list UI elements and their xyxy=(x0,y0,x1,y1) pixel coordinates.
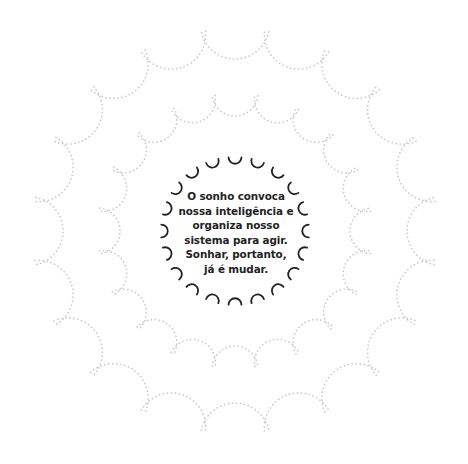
dotted-scallop-arc xyxy=(407,197,434,264)
solid-scallop-arc xyxy=(229,157,242,163)
dotted-scallop-arc xyxy=(343,251,370,295)
dotted-scallop-arc xyxy=(264,393,328,431)
dotted-scallop-arc xyxy=(201,403,268,430)
dotted-scallop-arc xyxy=(141,393,205,431)
quote-line-1: O sonho convoca xyxy=(175,189,297,204)
dotted-scallop-arc xyxy=(212,346,258,366)
dotted-scallop-arc xyxy=(172,339,216,366)
dotted-scallop-arc xyxy=(201,32,268,59)
solid-scallop-arc xyxy=(186,168,198,178)
dotted-scallop-arc xyxy=(54,87,102,144)
dotted-scallop-arc xyxy=(91,364,148,412)
dotted-scallop-arc xyxy=(141,31,205,69)
dotted-scallop-arc xyxy=(255,95,299,122)
quote-line-4: sistema para agir. xyxy=(175,233,297,248)
dotted-scallop-arc xyxy=(100,208,120,254)
dotted-scallop-arc xyxy=(137,108,177,142)
dotted-scallop-arc xyxy=(212,96,258,116)
dotted-scallop-arc xyxy=(172,95,216,122)
solid-scallop-arc xyxy=(161,225,167,238)
solid-scallop-arc xyxy=(302,225,308,238)
dotted-scallop-arc xyxy=(35,137,73,201)
dotted-scallop-arc xyxy=(36,197,63,264)
quote-line-3: organiza nosso xyxy=(175,218,297,233)
dotted-scallop-arc xyxy=(350,208,370,254)
dotted-scallop-arc xyxy=(264,31,328,69)
solid-scallop-arc xyxy=(272,284,284,294)
dotted-scallop-arc xyxy=(255,339,299,366)
dotted-scallop-arc xyxy=(99,251,126,295)
solid-scallop-arc xyxy=(229,298,242,304)
dotted-scallop-arc xyxy=(324,133,358,173)
solid-scallop-arc xyxy=(163,202,172,215)
quote-line-5: Sonhar, portanto, xyxy=(175,247,297,262)
quote-line-6: já é mudar. xyxy=(175,262,297,277)
dotted-scallop-arc xyxy=(397,260,435,324)
solid-scallop-arc xyxy=(298,247,307,260)
dotted-scallop-arc xyxy=(99,168,126,212)
dotted-scallop-arc xyxy=(322,364,379,412)
solid-scallop-arc xyxy=(186,284,198,294)
dotted-scallop-arc xyxy=(35,260,73,324)
solid-scallop-arc xyxy=(206,294,219,303)
dotted-scallop-arc xyxy=(343,168,370,212)
dotted-scallop-arc xyxy=(112,289,146,329)
dotted-scallop-arc xyxy=(397,137,435,201)
solid-scallop-arc xyxy=(272,168,284,178)
solid-scallop-arc xyxy=(206,159,219,168)
quote-line-2: nossa inteligência e xyxy=(175,204,297,219)
solid-scallop-arc xyxy=(163,247,172,260)
dotted-scallop-arc xyxy=(322,50,379,98)
quote-text: O sonho convoca nossa inteligência e org… xyxy=(175,189,297,277)
dotted-scallop-arc xyxy=(368,87,416,144)
solid-scallop-arc xyxy=(251,294,264,303)
dotted-scallop-arc xyxy=(368,318,416,375)
dotted-scallop-arc xyxy=(91,50,148,98)
solid-scallop-arc xyxy=(251,159,264,168)
solid-scallop-arc xyxy=(298,202,307,215)
dotted-scallop-arc xyxy=(54,318,102,375)
dotted-scallop-arc xyxy=(293,320,333,354)
